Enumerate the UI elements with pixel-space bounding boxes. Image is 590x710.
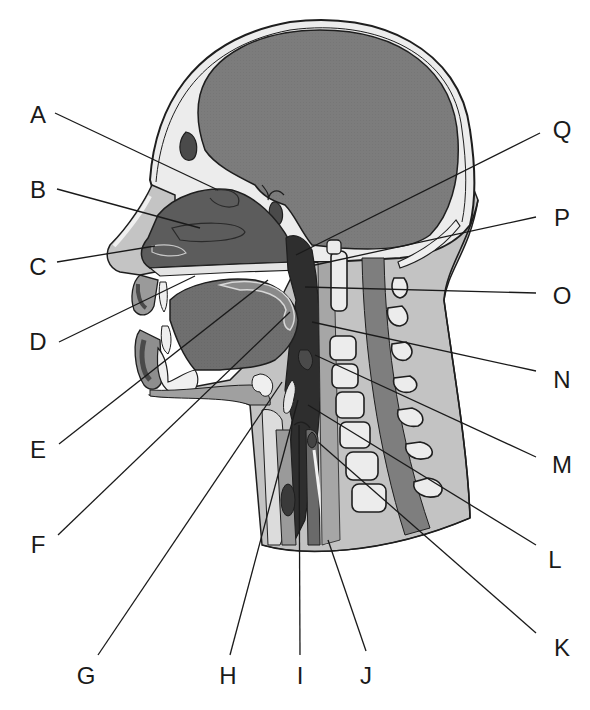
- leader-line-g: [98, 382, 282, 655]
- label-h: H: [219, 664, 236, 688]
- lower-incisor: [161, 326, 171, 354]
- head-neck-section-illustration: [0, 0, 590, 710]
- label-j: J: [360, 664, 372, 688]
- anatomy-diagram: ABCDEFGHIJKLMNOPQ: [0, 0, 590, 710]
- thyroid-gland: [281, 484, 295, 516]
- label-q: Q: [553, 118, 572, 142]
- label-a: A: [30, 103, 46, 127]
- label-f: F: [31, 533, 46, 557]
- label-e: E: [30, 438, 46, 462]
- label-c: C: [29, 255, 46, 279]
- upper-incisor: [159, 282, 167, 312]
- label-m: M: [552, 453, 572, 477]
- label-l: L: [548, 548, 561, 572]
- label-o: O: [553, 284, 572, 308]
- label-d: D: [29, 330, 46, 354]
- label-n: N: [553, 368, 570, 392]
- label-i: I: [297, 664, 304, 688]
- leader-line-j: [328, 540, 366, 651]
- label-k: K: [554, 636, 570, 660]
- label-b: B: [30, 178, 46, 202]
- label-g: G: [77, 664, 96, 688]
- label-p: P: [554, 206, 570, 230]
